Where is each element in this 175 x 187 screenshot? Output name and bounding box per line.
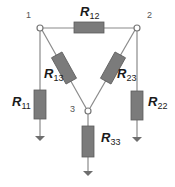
resistor-r33 [82, 126, 94, 157]
label-r23: R23 [117, 66, 136, 83]
resistor-network-diagram: 1 2 3 R12 R13 R23 R11 R22 R33 [0, 0, 175, 187]
resistor-r11 [34, 90, 46, 119]
ground-icon [83, 171, 93, 176]
node-3-terminal [85, 108, 91, 114]
node-2-label: 2 [147, 10, 152, 20]
resistor-r12 [74, 22, 104, 33]
node-1-terminal [37, 25, 43, 31]
node-2-terminal [134, 25, 140, 31]
ground-icon [35, 136, 45, 141]
label-r12: R12 [80, 4, 99, 21]
node-1-label: 1 [26, 10, 31, 20]
ground-icon [132, 137, 142, 142]
resistor-r22 [131, 91, 143, 120]
node-3-label: 3 [70, 104, 75, 114]
label-r22: R22 [148, 94, 167, 111]
resistors [34, 22, 143, 157]
label-r11: R11 [12, 94, 31, 111]
label-r33: R33 [101, 130, 120, 147]
